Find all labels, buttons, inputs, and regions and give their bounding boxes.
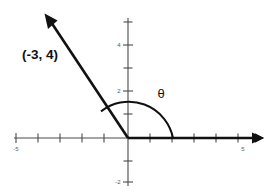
y-axis-label-lower: -2 <box>115 179 121 185</box>
y-axis-label-mid: 2 <box>117 88 121 94</box>
x-axis-label-right: 5 <box>241 146 245 152</box>
terminal-side-group <box>45 14 129 139</box>
initial-side-arrow-icon <box>252 133 264 144</box>
angle-theta-label: θ <box>157 86 164 101</box>
initial-side-group <box>128 133 264 144</box>
angle-arc-group <box>101 102 173 138</box>
terminal-side-ray <box>51 22 128 138</box>
x-axis-label-left: -5 <box>13 146 19 152</box>
coordinate-plane-figure: -5 5 4 2 -2 <box>0 0 271 190</box>
x-axis-group: -5 5 <box>13 133 264 152</box>
point-coordinate-label: (-3, 4) <box>22 47 58 62</box>
angle-arc <box>101 102 173 138</box>
y-axis-label-upper: 4 <box>117 42 121 48</box>
figure-svg: -5 5 4 2 -2 <box>0 0 271 190</box>
